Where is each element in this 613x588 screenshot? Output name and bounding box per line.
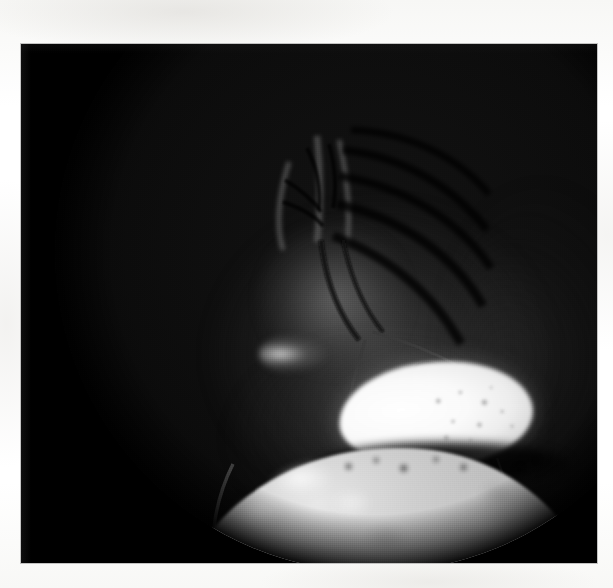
scanned-page bbox=[0, 0, 613, 588]
fundus-photograph-plate bbox=[21, 44, 597, 563]
